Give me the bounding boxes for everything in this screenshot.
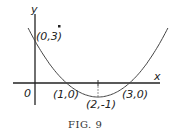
point-label-1-0: (1,0) (53, 88, 79, 101)
x-axis-label: x (153, 70, 161, 83)
parabola-plot: y x 0 (0,3) (1,0) (2,-1) (3,0) FIG. 9 (0, 0, 174, 137)
point-label-0-3: (0,3) (36, 30, 62, 43)
point-label-3-0: (3,0) (122, 88, 148, 101)
origin-label: 0 (24, 87, 31, 100)
y-axis-label: y (30, 3, 38, 16)
dot-mark (58, 25, 61, 28)
point-label-2-neg1: (2,-1) (86, 98, 116, 111)
figure-caption: FIG. 9 (68, 119, 102, 130)
figure-9: y x 0 (0,3) (1,0) (2,-1) (3,0) FIG. 9 (0, 0, 174, 137)
